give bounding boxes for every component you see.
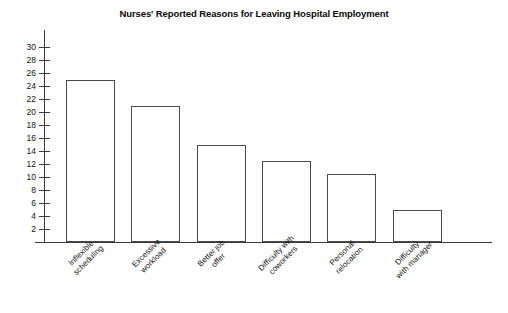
y-tick-mark bbox=[39, 190, 50, 191]
y-tick-label-text: 2 bbox=[14, 225, 36, 234]
y-tick-label-text: 16 bbox=[14, 134, 36, 143]
y-tick-label-text: 14 bbox=[14, 147, 36, 156]
y-tick-label-text: 20 bbox=[14, 108, 36, 117]
y-tick-label: 22 bbox=[10, 95, 36, 104]
y-tick-label: 26 bbox=[10, 69, 36, 78]
y-tick-label: 28 bbox=[10, 56, 36, 65]
y-tick-mark bbox=[39, 229, 50, 230]
y-tick-label-text: 10 bbox=[14, 173, 36, 182]
y-tick-label-text: 6 bbox=[14, 199, 36, 208]
y-tick-mark bbox=[39, 177, 50, 178]
bar bbox=[66, 80, 115, 243]
y-tick-label: 12 bbox=[10, 160, 36, 169]
y-tick-label-text: 18 bbox=[14, 121, 36, 130]
y-tick-label-text: 22 bbox=[14, 95, 36, 104]
y-tick-mark bbox=[39, 73, 50, 74]
y-tick-mark bbox=[39, 112, 50, 113]
y-tick-label: 4 bbox=[10, 212, 36, 221]
y-tick-label-text: 28 bbox=[14, 56, 36, 65]
y-tick-label-text: 12 bbox=[14, 160, 36, 169]
y-tick-label: 18 bbox=[10, 121, 36, 130]
y-tick-label: 24 bbox=[10, 82, 36, 91]
y-tick-label: 14 bbox=[10, 147, 36, 156]
y-tick-mark bbox=[39, 151, 50, 152]
y-tick-mark bbox=[39, 99, 50, 100]
y-tick-label-text: 30 bbox=[14, 43, 36, 52]
bar-chart-figure: Nurses' Reported Reasons for Leaving Hos… bbox=[0, 0, 508, 313]
y-tick-label: 20 bbox=[10, 108, 36, 117]
y-tick-mark bbox=[39, 86, 50, 87]
y-tick-label: 10 bbox=[10, 173, 36, 182]
y-tick-mark bbox=[39, 47, 50, 48]
y-tick-label-text: 24 bbox=[14, 82, 36, 91]
y-tick-label-text: 26 bbox=[14, 69, 36, 78]
plot-area: 24681012141618202224262830 Inflexiblesch… bbox=[0, 0, 508, 313]
y-tick-mark bbox=[39, 125, 50, 126]
y-tick-label: 8 bbox=[10, 186, 36, 195]
y-tick-mark bbox=[39, 164, 50, 165]
y-tick-mark bbox=[39, 138, 50, 139]
y-tick-mark bbox=[39, 203, 50, 204]
y-tick-label-text: 8 bbox=[14, 186, 36, 195]
y-tick-label: 6 bbox=[10, 199, 36, 208]
y-axis-line bbox=[44, 30, 45, 243]
y-tick-label-text: 4 bbox=[14, 212, 36, 221]
y-tick-label: 16 bbox=[10, 134, 36, 143]
y-tick-mark bbox=[39, 60, 50, 61]
y-tick-mark bbox=[39, 216, 50, 217]
y-tick-label: 30 bbox=[10, 43, 36, 52]
y-tick-label: 2 bbox=[10, 225, 36, 234]
